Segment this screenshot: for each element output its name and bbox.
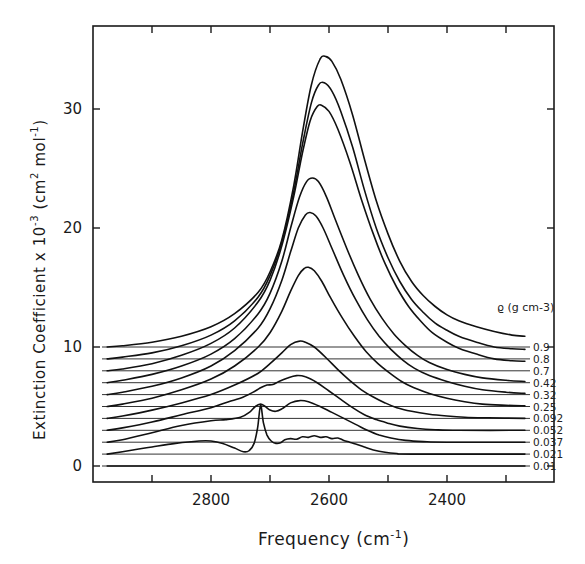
y-tick-label: 30 [63, 100, 82, 118]
density-label: 0.7 [533, 365, 550, 377]
spectrum-curve-0_8 [107, 82, 525, 359]
density-label: 0.037 [533, 436, 563, 448]
density-label: 0.8 [533, 353, 550, 365]
density-label: 0.9 [533, 341, 550, 353]
y-axis-label: Extinction Coefficient x 10-3 (cm2 mol-1… [29, 119, 49, 440]
density-label: 0.092 [533, 412, 563, 424]
density-label: 0.25 [533, 401, 556, 413]
x-tick-label: 2800 [192, 491, 230, 509]
y-tick-label: 20 [63, 219, 82, 237]
density-labels: 0.90.80.70.420.320.250.0920.0520.0370.02… [533, 341, 563, 472]
density-label: 0.01 [533, 460, 556, 472]
x-axis-label: Frequency (cm-1) [258, 528, 409, 549]
extinction-spectrum-chart: 2800260024000102030 0.90.80.70.420.320.2… [0, 0, 585, 564]
spectrum-curve-0_9 [107, 56, 525, 347]
y-tick-label: 0 [72, 457, 82, 475]
density-label: 0.42 [533, 377, 556, 389]
density-label: 0.052 [533, 424, 563, 436]
y-tick-label: 10 [63, 338, 82, 356]
x-tick-label: 2400 [428, 491, 466, 509]
legend-title: ϱ (g cm-3) [497, 301, 554, 314]
density-label: 0.32 [533, 389, 556, 401]
spectrum-curve-0_42 [107, 178, 525, 383]
spectra-curves [102, 56, 530, 466]
spectrum-curve-0_052 [107, 376, 525, 431]
spectrum-curve-0_32 [107, 212, 525, 394]
spectrum-curve-0_7 [107, 105, 525, 371]
plot-area-border [93, 26, 554, 482]
density-label: 0.021 [533, 448, 563, 460]
plot-frame [93, 26, 554, 482]
x-tick-label: 2600 [310, 491, 348, 509]
axis-ticks [93, 26, 554, 482]
